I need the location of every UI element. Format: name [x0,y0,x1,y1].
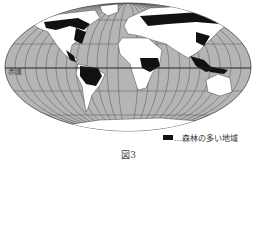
legend: …森林の多い地域 [163,132,238,143]
equator-label: 赤道 [8,66,22,76]
legend-label: …森林の多い地域 [174,132,238,143]
figure-caption: 図3 [0,148,257,161]
forest-swatch [163,135,173,140]
